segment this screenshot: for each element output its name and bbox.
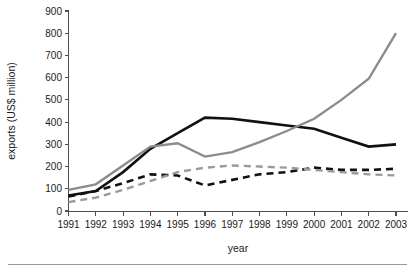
x-tick-label: 1996 (194, 219, 217, 230)
y-tick-label: 700 (45, 50, 62, 61)
x-tick-label: 1991 (57, 219, 80, 230)
y-axis-title: exports (US$ million) (5, 62, 17, 159)
y-tick-label: 800 (45, 28, 62, 39)
x-axis-tick-labels: 1991199219931994199519961997199819992000… (57, 219, 407, 230)
x-tick-label: 1994 (139, 219, 162, 230)
x-tick-label: 2002 (358, 219, 381, 230)
x-tick-label: 1995 (167, 219, 190, 230)
y-tick-label: 500 (45, 94, 62, 105)
y-axis-tick-labels: 0100200300400500600700800900 (45, 6, 62, 217)
x-tick-label: 2003 (385, 219, 408, 230)
axis-tick-marks (65, 11, 397, 216)
x-tick-label: 2001 (330, 219, 353, 230)
y-tick-label: 400 (45, 117, 62, 128)
y-tick-label: 300 (45, 139, 62, 150)
y-tick-label: 0 (56, 206, 62, 217)
y-tick-label: 900 (45, 6, 62, 17)
x-tick-label: 1998 (248, 219, 271, 230)
series-lines (69, 33, 397, 202)
x-tick-label: 1992 (85, 219, 108, 230)
x-axis-title: year (228, 242, 249, 254)
x-tick-label: 1997 (221, 219, 244, 230)
x-tick-label: 1999 (276, 219, 299, 230)
y-tick-label: 600 (45, 72, 62, 83)
x-tick-label: 2000 (303, 219, 326, 230)
x-tick-label: 1993 (112, 219, 135, 230)
y-tick-label: 200 (45, 161, 62, 172)
y-tick-label: 100 (45, 183, 62, 194)
line-chart: 0100200300400500600700800900 19911992199… (0, 0, 415, 269)
chart-figure: 0100200300400500600700800900 19911992199… (0, 0, 415, 269)
